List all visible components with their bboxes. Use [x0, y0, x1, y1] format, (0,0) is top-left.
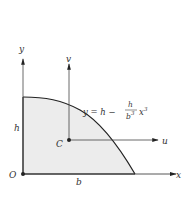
base-label: b [76, 177, 82, 187]
v-axis-label: v [66, 54, 71, 64]
shaded-area [23, 97, 135, 174]
centroid-label: C [56, 139, 63, 149]
equation-frac-den-exp: 3 [131, 110, 135, 116]
x-axis-label: x [176, 170, 181, 180]
equation-lhs: y = h − [82, 107, 116, 117]
origin-point [21, 172, 25, 176]
y-axis-label: y [18, 44, 25, 54]
equation-var-exp: 3 [144, 106, 148, 112]
origin-label: O [9, 170, 17, 180]
equation-frac-num: h [128, 100, 133, 109]
centroid-diagram: y v u x h b O C y = h − h b 3 x 3 [0, 0, 195, 197]
centroid-point [67, 138, 71, 142]
height-label: h [14, 123, 20, 133]
u-axis-label: u [162, 136, 168, 146]
